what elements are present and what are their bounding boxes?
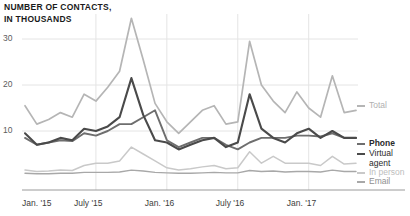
series-line-in-person — [25, 147, 356, 171]
x-axis-label-2: Jan. '16 — [145, 198, 175, 208]
y-axis-label-30: 30 — [3, 34, 25, 43]
legend-swatch-total — [357, 105, 365, 107]
x-axis-label-4: Jan. '17 — [287, 198, 317, 208]
chart-svg — [0, 0, 410, 216]
vertical-gridlines — [96, 14, 309, 190]
x-axis-label-0: Jan. '15 — [22, 198, 52, 208]
series-line-total — [25, 18, 356, 133]
legend-swatch-email — [357, 181, 365, 183]
legend-swatch-in-person — [357, 172, 365, 174]
x-axis-label-1: July '15 — [74, 198, 103, 208]
legend-label-email: Email — [369, 177, 390, 187]
series-line-email — [25, 170, 356, 174]
contacts-line-chart: NUMBER OF CONTACTS, IN THOUSANDS 102030 … — [0, 0, 410, 216]
y-axis-label-10: 10 — [3, 126, 25, 135]
x-axis-label-3: July '16 — [216, 198, 245, 208]
legend-swatch-virtual-agent — [357, 153, 365, 155]
legend-swatch-phone — [357, 143, 365, 145]
plot-area: 102030 Jan. '15July '15Jan. '16July '16J… — [0, 0, 410, 216]
legend-label-total: Total — [369, 101, 387, 111]
y-axis-label-20: 20 — [3, 80, 25, 89]
series-lines — [25, 18, 356, 173]
legend-label-virtual-agent: Virtual agent — [369, 149, 393, 168]
